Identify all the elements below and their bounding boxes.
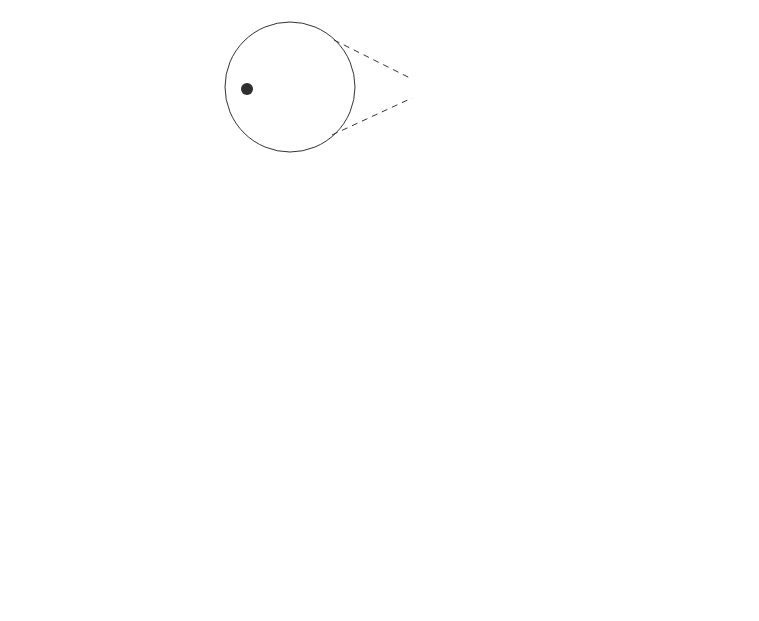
capsomer-subunits [241, 83, 253, 95]
top-magnified-phage-circle [225, 22, 412, 152]
filamentous-phage-lifecycle-diagram [0, 0, 759, 621]
